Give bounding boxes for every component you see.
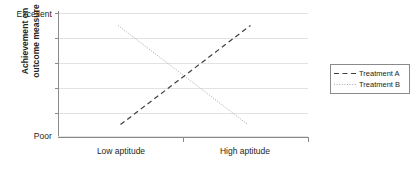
series-line-treatment-a bbox=[121, 25, 251, 124]
legend-item-treatment-b: Treatment B bbox=[334, 79, 405, 90]
series-container bbox=[58, 13, 308, 137]
plot-area bbox=[58, 13, 308, 137]
legend-label-treatment-a: Treatment A bbox=[359, 69, 400, 78]
chart-figure: Excellent Poor Achievement on outcome me… bbox=[0, 0, 414, 174]
y-axis-title-line-1: Achievement on bbox=[20, 8, 31, 74]
chart-legend: Treatment A Treatment B bbox=[330, 64, 410, 94]
legend-swatch-dashed-icon bbox=[334, 69, 356, 78]
y-axis-title-line-2: outcome measure bbox=[31, 4, 42, 78]
y-axis-tick-label-poor: Poor bbox=[0, 131, 52, 141]
x-axis-tick-label-high-aptitude: High aptitude bbox=[184, 146, 306, 156]
legend-swatch-dotted-icon bbox=[334, 80, 356, 89]
legend-label-treatment-b: Treatment B bbox=[359, 80, 400, 89]
x-axis-tick-mark-right bbox=[308, 137, 309, 142]
series-line-treatment-b bbox=[118, 25, 248, 124]
y-axis-title: Achievement on outcome measure bbox=[18, 0, 44, 96]
legend-item-treatment-a: Treatment A bbox=[334, 68, 405, 79]
x-axis-tick-label-low-aptitude: Low aptitude bbox=[60, 146, 182, 156]
x-axis-tick-mark-middle bbox=[183, 137, 184, 142]
